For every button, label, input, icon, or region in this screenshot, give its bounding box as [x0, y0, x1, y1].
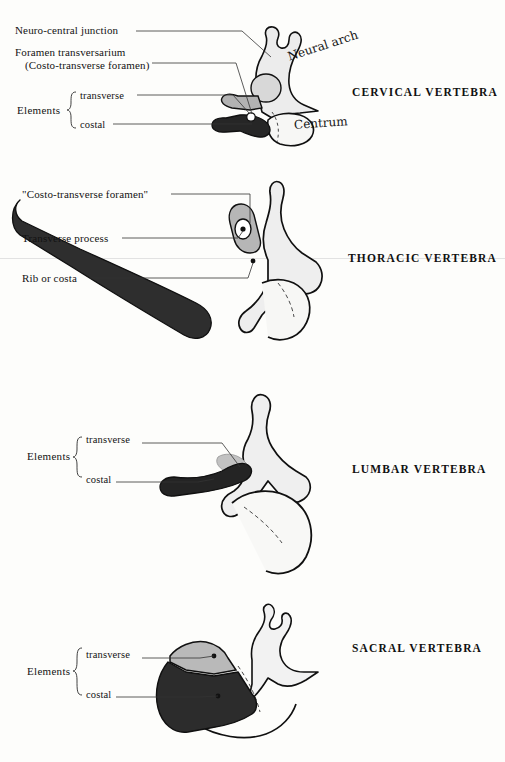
rib-or-costa-shape	[13, 200, 212, 338]
label-costal-cervical: costal	[80, 118, 105, 131]
label-elements-sacral: Elements	[27, 665, 70, 677]
elements-brace-sacral	[73, 648, 82, 695]
label-elements-lumbar: Elements	[27, 450, 70, 462]
transverse-process-marker-dot	[251, 259, 256, 264]
label-costal-sacral: costal	[86, 688, 111, 701]
region-title-cervical: CERVICAL VERTEBRA	[352, 86, 498, 98]
panel-thoracic: "Costo-transverse foramen" Transverse pr…	[0, 165, 505, 360]
costal-element-shape	[212, 115, 270, 137]
centrum-shape	[262, 280, 310, 340]
figure-plate: Neuro-central junction Foramen transvers…	[0, 0, 505, 762]
leader-neuro-central-junction	[136, 31, 271, 57]
neural-arch-shape	[248, 604, 318, 702]
foramen-marker-dot	[240, 226, 245, 231]
neural-arch-shape	[256, 27, 318, 118]
transverse-element-shape	[221, 94, 262, 110]
label-elements-cervical: Elements	[17, 104, 60, 116]
panel-cervical: Neuro-central junction Foramen transvers…	[0, 0, 505, 165]
label-rib-or-costa: Rib or costa	[22, 272, 77, 285]
leader-transverse-process	[122, 231, 243, 238]
label-costo-transverse-foramen-paren: (Costo-transverse foramen)	[25, 59, 150, 72]
sacral-vertebra-illustration	[0, 600, 505, 762]
label-foramen-transversarium: Foramen transversarium	[15, 46, 126, 59]
label-neuro-central-junction: Neuro-central junction	[15, 24, 118, 37]
label-transverse-cervical: transverse	[80, 89, 124, 102]
panel-sacral: Elements transverse costal SACRAL VERTEB…	[0, 600, 505, 762]
centrum-shape	[232, 491, 311, 573]
label-costal-lumbar: costal	[86, 473, 111, 486]
label-transverse-lumbar: transverse	[86, 433, 130, 446]
region-title-thoracic: THORACIC VERTEBRA	[348, 252, 497, 264]
elements-brace-cervical	[67, 92, 76, 128]
region-title-sacral: SACRAL VERTEBRA	[352, 642, 482, 654]
label-transverse-sacral: transverse	[86, 648, 130, 661]
region-title-lumbar: LUMBAR VERTEBRA	[352, 463, 487, 475]
elements-brace-lumbar	[73, 437, 82, 477]
label-costo-transverse-foramen-quoted: "Costo-transverse foramen"	[22, 188, 148, 201]
panel-lumbar: Elements transverse costal LUMBAR VERTEB…	[0, 375, 505, 575]
lumbar-vertebra-illustration	[0, 375, 505, 575]
foramen-transversarium-hole	[247, 113, 255, 121]
label-transverse-process: Transverse process	[22, 232, 108, 245]
